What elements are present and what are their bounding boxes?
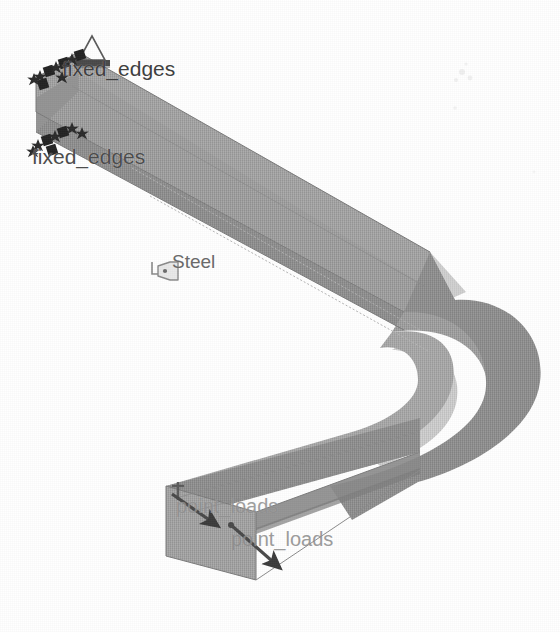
- model-viewport[interactable]: fixed_edges fixed_edges Steel point_load…: [0, 0, 560, 632]
- scan-artifact: [453, 62, 535, 173]
- fea-model-screenshot: fixed_edges fixed_edges Steel point_load…: [0, 0, 560, 632]
- beam-upper-top-face: [36, 52, 455, 312]
- beam-solid[interactable]: [36, 52, 541, 580]
- material-tag-icon[interactable]: [152, 262, 178, 280]
- beam-3d-scene[interactable]: [0, 0, 560, 632]
